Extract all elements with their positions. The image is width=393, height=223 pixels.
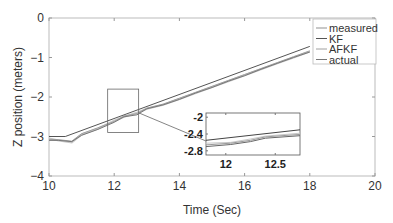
inset-y-tick-label: -2.8 — [184, 145, 203, 157]
x-tick-label: 10 — [42, 179, 56, 193]
y-axis-label: Z position (meters) — [11, 47, 25, 147]
inset-y-tick-label: -2.4 — [184, 128, 204, 140]
inset-x-tick-label: 12.5 — [265, 158, 286, 170]
x-tick-label: 16 — [238, 179, 252, 193]
x-tick-label: 20 — [368, 179, 382, 193]
y-tick-label: −1 — [30, 51, 44, 65]
x-tick-label: 12 — [108, 179, 122, 193]
x-tick-label: 14 — [173, 179, 187, 193]
inset-x-tick-label: 12 — [220, 158, 232, 170]
x-axis-label: Time (Sec) — [183, 203, 241, 217]
y-tick-label: −3 — [30, 130, 44, 144]
y-tick-label: −2 — [30, 90, 44, 104]
x-tick-label: 18 — [303, 179, 317, 193]
y-tick-label: 0 — [37, 11, 44, 25]
legend: measuredKFAFKFactual — [313, 19, 378, 66]
legend-label-actual: actual — [329, 54, 358, 66]
inset-y-tick-label: -2 — [193, 111, 203, 123]
chart: 1012141618200−1−2−3−4 Time (Sec) Z posit… — [0, 0, 393, 223]
y-tick-label: −4 — [30, 169, 44, 183]
